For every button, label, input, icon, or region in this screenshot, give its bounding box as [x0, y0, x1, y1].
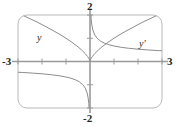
- curve-label-y: y: [37, 33, 41, 43]
- curve-y_prime_positive_branch: [91, 14, 162, 50]
- curve-y_prime_negative_branch: [18, 72, 89, 108]
- axis-label-right: 3: [167, 56, 173, 67]
- graph-figure: -3 3 2 -2 y y′: [0, 0, 180, 127]
- axis-label-left: -3: [2, 56, 11, 67]
- plot-area: [0, 0, 180, 127]
- axis-label-top: 2: [87, 1, 93, 12]
- axis-label-bottom: -2: [83, 113, 92, 124]
- curve-label-y-prime: y′: [139, 39, 146, 49]
